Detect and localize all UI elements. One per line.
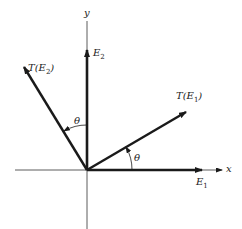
angle-arc-bottom <box>126 147 132 170</box>
theta-label-top: θ <box>74 116 80 126</box>
rotation-diagram <box>0 0 242 229</box>
label-t-e1: T(E1) <box>176 91 202 104</box>
label-e1: E1 <box>196 177 208 190</box>
theta-label-bottom: θ <box>134 153 140 163</box>
label-e2: E2 <box>93 48 105 61</box>
y-axis-label: y <box>84 8 90 18</box>
x-axis-label: x <box>226 164 232 174</box>
label-t-e2: T(E2) <box>28 63 54 76</box>
